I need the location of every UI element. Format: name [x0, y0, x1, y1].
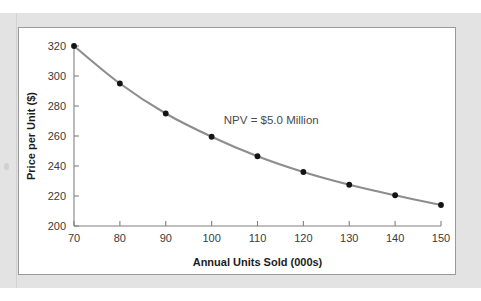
x-tick-label-100: 100: [202, 232, 220, 244]
y-tick-label-280: 280: [48, 100, 66, 112]
data-point-130: [346, 182, 352, 188]
y-axis-tick-marks: [74, 46, 79, 226]
figure-root: 200220240260280300320 708090100110120130…: [0, 0, 481, 301]
y-tick-label-300: 300: [48, 70, 66, 82]
y-tick-label-260: 260: [48, 130, 66, 142]
x-tick-label-150: 150: [432, 232, 450, 244]
scan-speckle-artifact: [4, 163, 9, 170]
npv-annotation: NPV = $5.0 Million: [224, 114, 319, 126]
x-axis-title: Annual Units Sold (000s): [193, 256, 323, 268]
data-point-110: [255, 153, 261, 159]
data-point-140: [392, 192, 398, 198]
x-axis-tick-marks: [74, 221, 441, 226]
chart-panel: 200220240260280300320 708090100110120130…: [18, 27, 456, 275]
y-axis-title: Price per Unit ($): [25, 92, 37, 180]
x-tick-label-90: 90: [160, 232, 172, 244]
x-tick-label-70: 70: [68, 232, 80, 244]
y-tick-label-240: 240: [48, 160, 66, 172]
data-point-80: [117, 81, 123, 87]
data-point-120: [300, 169, 306, 175]
data-point-100: [209, 134, 215, 140]
x-axis-tick-labels: 708090100110120130140150: [68, 232, 450, 244]
x-tick-label-140: 140: [386, 232, 404, 244]
x-tick-label-110: 110: [249, 232, 267, 244]
data-point-90: [163, 111, 169, 117]
y-tick-label-320: 320: [48, 40, 66, 52]
y-axis-tick-labels: 200220240260280300320: [48, 40, 66, 232]
y-tick-label-200: 200: [48, 220, 66, 232]
x-tick-label-130: 130: [340, 232, 358, 244]
data-point-150: [438, 202, 444, 208]
data-point-70: [71, 43, 77, 49]
x-tick-label-120: 120: [294, 232, 312, 244]
x-tick-label-80: 80: [114, 232, 126, 244]
page-margin-rule: [16, 13, 17, 288]
price-vs-units-chart: 200220240260280300320 708090100110120130…: [19, 28, 455, 274]
y-tick-label-220: 220: [48, 190, 66, 202]
